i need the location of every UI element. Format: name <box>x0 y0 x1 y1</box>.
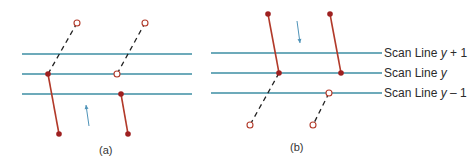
panel-b-filled-vertex-icon <box>265 11 271 17</box>
panel-a-edge-1-solid <box>121 94 128 134</box>
panel-a-filled-vertex-icon <box>56 131 62 137</box>
panel-b-edge-0-solid <box>268 14 279 73</box>
panel-b-edge-0-dashed <box>250 73 279 125</box>
panel-b-edge-1-dashed <box>313 93 329 125</box>
caption-b: (b) <box>290 142 303 153</box>
scan-line-diagram <box>0 0 476 165</box>
panel-b-filled-vertex-icon <box>327 11 333 17</box>
panel-b-filled-vertex-icon <box>338 70 344 76</box>
panel-b-open-vertex-icon <box>247 122 253 128</box>
panel-a-filled-vertex-icon <box>118 91 124 97</box>
panel-a-edge-0-dashed <box>48 23 77 74</box>
scan-line-label-y-minus-1: Scan Line y – 1 <box>384 87 467 99</box>
panel-a-filled-vertex-icon <box>45 71 51 77</box>
caption-a: (a) <box>99 145 112 156</box>
panel-a-open-vertex-icon <box>74 20 80 26</box>
panel-a-open-vertex-icon <box>142 20 148 26</box>
panel-a-edge-0-solid <box>48 74 59 134</box>
panel-a-edge-1-dashed <box>117 23 145 74</box>
panel-a-open-vertex-icon <box>114 71 120 77</box>
panel-b-edge-1-solid <box>330 14 341 73</box>
panel-b-open-vertex-icon <box>310 122 316 128</box>
scan-line-label-y-plus-1: Scan Line y + 1 <box>384 47 467 59</box>
panel-b-open-vertex-icon <box>326 90 332 96</box>
panel-b-filled-vertex-icon <box>276 70 282 76</box>
scan-line-label-y: Scan Line y <box>384 67 447 79</box>
panel-a-filled-vertex-icon <box>125 131 131 137</box>
